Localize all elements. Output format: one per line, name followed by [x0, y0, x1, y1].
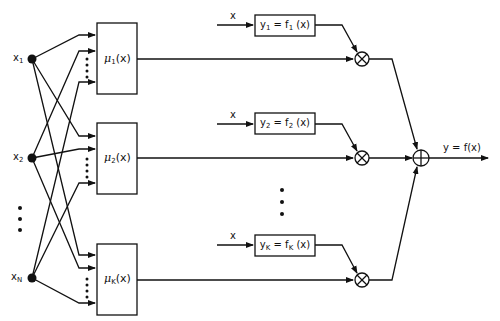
- summation-node: [413, 150, 429, 166]
- input-label-x2: x2: [13, 152, 23, 164]
- input-node-x2: [28, 154, 37, 163]
- multiplier-K: [355, 273, 369, 287]
- expert2-input-label: x: [230, 110, 236, 120]
- multiplier-1: [355, 52, 369, 66]
- input-node-x1: [28, 55, 37, 64]
- expert1-input-label: x: [230, 11, 236, 21]
- expertK-label: yK = fK (x): [255, 239, 315, 252]
- input-label-x1: x1: [13, 53, 23, 65]
- diagram-canvas: [0, 0, 500, 321]
- output-label: y = f(x): [443, 143, 481, 153]
- mu1-label: μ1(x): [104, 52, 131, 66]
- expertK-input-label: x: [230, 231, 236, 241]
- expert1-label: y1 = f1 (x): [255, 19, 315, 32]
- input-node-xN: [28, 274, 37, 283]
- mu2-label: μ2(x): [104, 151, 131, 165]
- input-label-xN: xN: [11, 272, 22, 284]
- multiplier-2: [355, 151, 369, 165]
- muK-label: μK(x): [104, 272, 131, 286]
- expert2-label: y2 = f2 (x): [255, 117, 315, 130]
